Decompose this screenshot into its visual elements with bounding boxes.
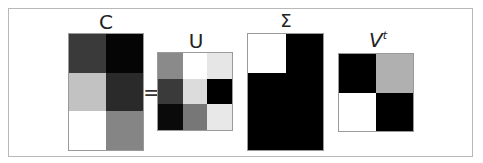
matrix-cell [286, 73, 324, 112]
matrix-cell [183, 79, 208, 105]
label-v: V [369, 28, 383, 52]
matrix-vt [338, 53, 414, 132]
matrix-cell [248, 73, 286, 112]
matrix-cell [207, 53, 232, 79]
matrix-cell [183, 104, 208, 130]
matrix-cell [69, 34, 106, 73]
matrix-cell [106, 111, 143, 150]
matrix-cell [286, 111, 324, 150]
matrix-cell [158, 79, 183, 105]
matrix-cell [106, 34, 143, 73]
matrix-cell [286, 34, 324, 73]
matrix-cell [248, 111, 286, 150]
matrix-cell [207, 79, 232, 105]
label-sigma: Σ [272, 12, 300, 30]
label-c: C [92, 12, 120, 32]
matrix-cell [158, 104, 183, 130]
matrix-u [157, 52, 233, 131]
label-v-superscript: t [383, 29, 387, 42]
matrix-cell [376, 93, 413, 132]
label-u: U [182, 31, 210, 51]
matrix-cell [339, 93, 376, 132]
matrix-cell [248, 34, 286, 73]
matrix-cell [183, 53, 208, 79]
matrix-cell [69, 111, 106, 150]
label-vt: Vt [358, 30, 398, 50]
matrix-cell [207, 104, 232, 130]
matrix-cell [339, 54, 376, 93]
matrix-cell [376, 54, 413, 93]
matrix-sigma [247, 33, 324, 151]
matrix-cell [69, 73, 106, 112]
matrix-cell [106, 73, 143, 112]
matrix-c [68, 33, 144, 151]
matrix-cell [158, 53, 183, 79]
